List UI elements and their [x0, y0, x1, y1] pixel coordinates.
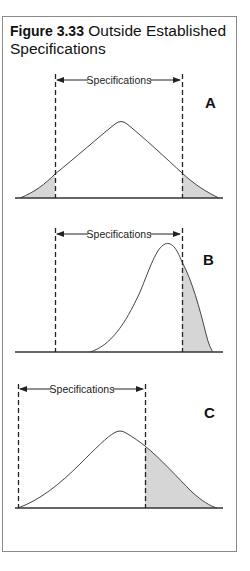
panel-c-spec-label: Specifications: [50, 383, 115, 395]
panel-a-letter: A: [205, 94, 216, 111]
panel-b-letter: B: [203, 251, 214, 268]
figure-diagram: Specifications A Specifications B Specif…: [0, 0, 250, 571]
panel-c: Specifications C: [15, 383, 223, 508]
panel-a-left-tail-shade: [20, 174, 55, 198]
panel-a-spec-label: Specifications: [87, 74, 152, 86]
panel-c-letter: C: [204, 404, 215, 421]
panel-a: Specifications A: [15, 74, 223, 198]
panel-b-right-tail-shade: [182, 262, 213, 352]
panel-b: Specifications B: [15, 228, 223, 352]
panel-a-right-tail-shade: [182, 173, 219, 198]
panel-b-spec-label: Specifications: [87, 228, 152, 240]
